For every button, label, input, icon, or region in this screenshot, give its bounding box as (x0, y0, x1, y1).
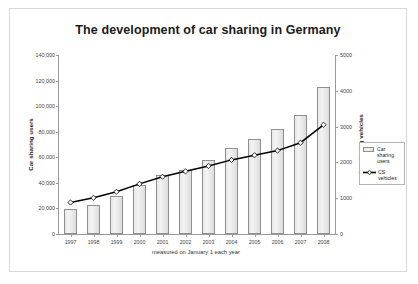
x-tick-mark (255, 234, 256, 237)
legend-item-vehicles: CS vehicles (363, 169, 402, 181)
line-path (71, 125, 324, 203)
x-tick-mark (301, 234, 302, 237)
line-marker-1998 (91, 195, 96, 200)
y-tick-left: 60,000 (39, 154, 60, 160)
x-tick-mark (209, 234, 210, 237)
x-tick-mark (117, 234, 118, 237)
x-tick-2004: 2004 (226, 239, 238, 245)
plot-area: 020,00040,00060,00080,000100,000120,0001… (58, 55, 336, 235)
x-tick-1997: 1997 (65, 239, 77, 245)
y-tick-right: 0 (335, 231, 343, 237)
x-tick-2001: 2001 (157, 239, 169, 245)
y-tick-left: 80,000 (39, 129, 60, 135)
legend-label-vehicles: CS vehicles (378, 169, 402, 181)
y-axis-label-left-text: Car sharing users (27, 118, 34, 171)
x-tick-mark (324, 234, 325, 237)
line-marker-1999 (114, 189, 119, 194)
x-tick-2008: 2008 (318, 239, 330, 245)
y-axis-label-left: Car sharing users (24, 55, 36, 234)
x-tick-mark (71, 234, 72, 237)
x-tick-2002: 2002 (180, 239, 192, 245)
x-tick-mark (232, 234, 233, 237)
x-tick-mark (94, 234, 95, 237)
y-tick-left: 40,000 (39, 180, 60, 186)
x-tick-mark (163, 234, 164, 237)
bar-swatch-icon (363, 147, 374, 152)
y-tick-right: 4000 (335, 88, 352, 94)
line-marker-2000 (137, 181, 142, 186)
x-tick-mark (186, 234, 187, 237)
line-marker-icon (363, 169, 376, 176)
plot-wrapper: Car sharing users Car sharing vehicles 0… (10, 9, 408, 273)
x-tick-2000: 2000 (134, 239, 146, 245)
x-tick-2007: 2007 (295, 239, 307, 245)
y-tick-left: 120,000 (36, 78, 60, 84)
x-tick-2003: 2003 (203, 239, 215, 245)
line-marker-2001 (160, 174, 165, 179)
line-marker-2003 (206, 163, 211, 168)
line-marker-1997 (68, 200, 73, 205)
line-series (59, 55, 335, 234)
line-marker-2002 (183, 169, 188, 174)
x-tick-mark (278, 234, 279, 237)
line-marker-2006 (275, 148, 280, 153)
y-tick-left: 20,000 (39, 205, 60, 211)
x-tick-2005: 2005 (249, 239, 261, 245)
x-tick-mark (140, 234, 141, 237)
y-tick-right: 3000 (335, 124, 352, 130)
chart-card: The development of car sharing in German… (9, 8, 407, 272)
y-tick-right: 5000 (335, 52, 352, 58)
line-marker-2005 (252, 153, 257, 158)
y-tick-left: 140,000 (36, 52, 60, 58)
y-tick-right: 1000 (335, 195, 352, 201)
line-marker-2004 (229, 157, 234, 162)
legend-item-users: Car sharing users (363, 146, 402, 165)
x-tick-2006: 2006 (272, 239, 284, 245)
y-tick-left: 100,000 (36, 103, 60, 109)
y-tick-right: 2000 (335, 159, 352, 165)
x-axis-label: measured on January 1 each year (58, 249, 334, 255)
chart-legend: Car sharing users CS vehicles (359, 142, 405, 185)
x-tick-1999: 1999 (111, 239, 123, 245)
y-tick-left: 0 (52, 231, 59, 237)
x-tick-1998: 1998 (88, 239, 100, 245)
legend-label-users: Car sharing users (377, 146, 402, 165)
